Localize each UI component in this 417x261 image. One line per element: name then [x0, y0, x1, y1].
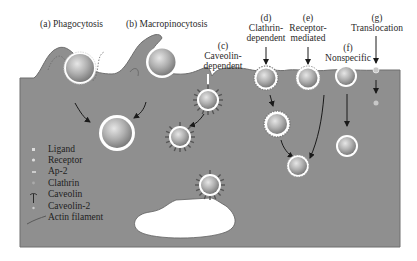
clathrin-coated-vesicle	[264, 111, 290, 137]
receptor-mediated-pit	[296, 66, 320, 90]
label-g-line1: Translocation	[348, 23, 406, 34]
internalized-particle	[374, 101, 379, 106]
legend-label-receptor: Receptor	[48, 155, 82, 166]
nonspecific-vesicle	[336, 135, 358, 157]
endocytosis-diagram: (a) Phagocytosis (b) Macropinocytosis (c…	[0, 0, 417, 261]
caveosome	[165, 122, 195, 152]
label-c-line2: dependent	[198, 61, 248, 72]
legend-label-caveolin: Caveolin	[48, 189, 82, 200]
endosome	[287, 155, 309, 177]
legend-label-ap2: Ap-2	[48, 166, 68, 177]
ligand-icon	[32, 148, 35, 151]
nonspecific-pit	[335, 65, 357, 87]
legend-label-actin-filament: Actin filament	[48, 212, 103, 223]
clathrin-coated-pit	[254, 66, 278, 90]
ap2-icon	[32, 171, 36, 173]
legend-label-caveolin2: Caveolin-2	[48, 201, 90, 212]
label-d-line2: dependent	[242, 33, 290, 44]
label-f-line1: Nonspecific	[322, 53, 374, 64]
label-macropinocytosis: (b) Macropinocytosis	[126, 19, 208, 30]
caveolin2-icon	[32, 207, 34, 209]
legend-label-clathrin: Clathrin	[48, 178, 79, 189]
receptor-icon	[32, 158, 35, 161]
label-phagocytosis: (a) Phagocytosis	[40, 19, 103, 30]
clathrin-icon	[32, 182, 35, 185]
translocating-particle	[373, 67, 379, 73]
phagosome-vesicle	[99, 115, 135, 151]
legend-label-ligand: Ligand	[48, 144, 75, 155]
label-e-line2: mediated	[284, 33, 332, 44]
